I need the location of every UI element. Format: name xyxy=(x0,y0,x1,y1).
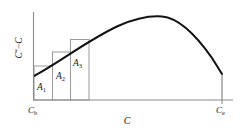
driving-force-figure: A1 A2 A3 Cb Ce C xyxy=(0,0,248,129)
x-tick-sub-start: b xyxy=(34,109,37,116)
svg-text:A1: A1 xyxy=(36,82,46,93)
svg-text:A3: A3 xyxy=(72,58,83,69)
svg-text:Ce: Ce xyxy=(216,105,225,116)
area-sub-a3: 3 xyxy=(79,62,83,69)
svg-text:C*−C: C*−C xyxy=(13,37,24,59)
svg-text:A2: A2 xyxy=(55,71,65,82)
x-axis-title: C xyxy=(124,115,131,126)
y-axis-title-c: C xyxy=(14,37,24,44)
area-sub-a2: 2 xyxy=(62,75,65,82)
area-label-a2-group: A2 xyxy=(55,71,65,82)
y-axis-title-group: C*−C xyxy=(13,37,24,59)
area-label-a3-group: A3 xyxy=(72,58,83,69)
area-label-a1-group: A1 xyxy=(36,82,46,93)
plot-canvas: A1 A2 A3 Cb Ce C xyxy=(0,0,248,129)
x-tick-sub-end: e xyxy=(222,109,225,116)
x-tick-label-end-group: Ce xyxy=(216,105,225,116)
driving-force-curve xyxy=(34,16,222,76)
x-tick-label-start-group: Cb xyxy=(28,105,37,116)
svg-text:Cb: Cb xyxy=(28,105,37,116)
x-axis-title-group: C xyxy=(124,115,131,126)
area-sub-a1: 1 xyxy=(43,86,46,93)
